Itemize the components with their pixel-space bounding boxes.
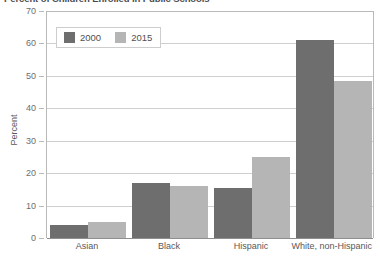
legend-item[interactable]: 2015 (115, 32, 152, 43)
y-tick-mark-50 (39, 76, 44, 77)
bar[interactable] (50, 225, 88, 238)
y-tick-mark-10 (39, 206, 44, 207)
x-tick-label: Hispanic (234, 241, 269, 251)
y-axis: Percent 010203040506070 (0, 0, 44, 258)
bar[interactable] (132, 183, 170, 238)
y-tick-mark-0 (39, 238, 44, 239)
x-tick-label: Asian (76, 241, 99, 251)
y-tick-mark-20 (39, 173, 44, 174)
y-tick-label-50: 50 (26, 71, 36, 81)
y-tick-label-40: 40 (26, 103, 36, 113)
y-tick-label-10: 10 (26, 201, 36, 211)
legend-item[interactable]: 2000 (64, 32, 101, 43)
legend-swatch-icon (64, 32, 75, 43)
y-tick-mark-60 (39, 43, 44, 44)
legend-label: 2000 (80, 32, 101, 43)
x-axis-labels: AsianBlackHispanicWhite, non-Hispanic (46, 241, 374, 257)
y-tick-mark-40 (39, 108, 44, 109)
gridline-0 (47, 238, 373, 239)
y-tick-label-20: 20 (26, 168, 36, 178)
y-tick-mark-30 (39, 141, 44, 142)
y-axis-label: Percent (9, 90, 19, 170)
bar[interactable] (88, 222, 126, 238)
bar[interactable] (170, 186, 208, 238)
legend-swatch-icon (115, 32, 126, 43)
legend: 20002015 (56, 27, 161, 48)
bar[interactable] (334, 81, 372, 238)
x-tick-label: White, non-Hispanic (291, 241, 372, 251)
bar[interactable] (252, 157, 290, 238)
bar-group (296, 11, 372, 238)
bar[interactable] (214, 188, 252, 238)
legend-label: 2015 (131, 32, 152, 43)
x-tick-label: Black (158, 241, 180, 251)
bar-group (214, 11, 290, 238)
y-tick-label-0: 0 (31, 233, 36, 243)
bar[interactable] (296, 40, 334, 238)
y-tick-mark-70 (39, 11, 44, 12)
y-tick-label-30: 30 (26, 136, 36, 146)
y-tick-label-70: 70 (26, 6, 36, 16)
y-tick-label-60: 60 (26, 38, 36, 48)
